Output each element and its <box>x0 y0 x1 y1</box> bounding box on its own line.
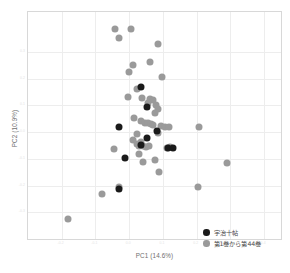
x-tick-label: 0.1 <box>159 241 164 245</box>
data-point-main-volumes <box>128 26 135 33</box>
gridline-vertical <box>62 12 63 239</box>
gridline-vertical <box>129 12 130 239</box>
data-point-main-volumes <box>130 115 137 122</box>
pca-scatter-figure: -0.2-0.10.00.10.20.30.4 -0.3-0.2-0.10.00… <box>0 0 290 273</box>
plot-area <box>27 11 282 240</box>
data-point-main-volumes <box>145 143 152 150</box>
data-point-uji <box>115 123 122 130</box>
x-tick-label: 0.2 <box>193 241 198 245</box>
data-point-uji <box>115 186 122 193</box>
data-point-main-volumes <box>111 26 118 33</box>
data-point-uji <box>169 145 176 152</box>
data-point-main-volumes <box>99 190 106 197</box>
data-point-main-volumes <box>111 145 118 152</box>
gridline-horizontal <box>28 79 281 80</box>
data-point-main-volumes <box>166 124 173 131</box>
legend-marker-icon-uji <box>203 229 210 236</box>
data-point-uji <box>143 134 150 141</box>
data-point-main-volumes <box>159 73 166 80</box>
data-point-main-volumes <box>151 110 158 117</box>
legend-item-main-volumes[interactable]: 第1巻から第44巻 <box>203 239 261 248</box>
data-point-main-volumes <box>136 150 143 157</box>
data-point-main-volumes <box>195 184 202 191</box>
data-point-main-volumes <box>64 215 71 222</box>
y-axis-title: PC2 (10.9%) <box>11 69 18 189</box>
data-point-main-volumes <box>126 68 133 75</box>
gridline-vertical <box>230 12 231 239</box>
data-point-main-volumes <box>138 94 145 101</box>
data-point-main-volumes <box>196 123 203 130</box>
x-tick-label: 0.4 <box>261 241 266 245</box>
legend-label-main-volumes: 第1巻から第44巻 <box>214 239 262 248</box>
data-point-uji <box>137 141 144 148</box>
x-tick-label: -0.1 <box>91 241 97 245</box>
data-point-main-volumes <box>152 157 159 164</box>
x-axis-title: PC1 (14.6%) <box>27 252 282 259</box>
data-point-main-volumes <box>124 94 131 101</box>
data-point-main-volumes <box>155 168 162 175</box>
data-point-uji <box>137 83 144 90</box>
data-point-main-volumes <box>140 158 147 165</box>
y-tick-label: -0.3 <box>11 209 25 213</box>
data-point-uji <box>154 128 161 135</box>
data-point-main-volumes <box>147 59 154 66</box>
gridline-vertical <box>264 12 265 239</box>
x-tick-label: -0.2 <box>58 241 64 245</box>
legend-item-uji[interactable]: 宇治十帖 <box>203 228 261 237</box>
x-tick-label: 0.0 <box>126 241 131 245</box>
data-point-uji <box>143 103 150 110</box>
data-point-main-volumes <box>116 35 123 42</box>
data-point-uji <box>122 154 129 161</box>
y-tick-label: 0.3 <box>11 49 25 53</box>
data-point-main-volumes <box>130 61 137 68</box>
gridline-horizontal <box>28 186 281 187</box>
gridline-horizontal <box>28 52 281 53</box>
gridline-horizontal <box>28 212 281 213</box>
legend: 宇治十帖 第1巻から第44巻 <box>203 228 261 248</box>
legend-marker-icon-main-volumes <box>203 240 210 247</box>
data-point-main-volumes <box>155 41 162 48</box>
data-point-main-volumes <box>224 160 231 167</box>
legend-label-uji: 宇治十帖 <box>214 228 238 237</box>
gridline-vertical <box>95 12 96 239</box>
